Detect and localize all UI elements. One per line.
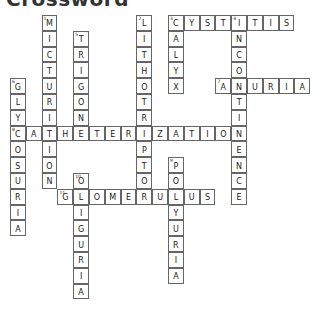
grid-cell[interactable]: I	[136, 126, 152, 142]
grid-cell[interactable]: E	[231, 141, 247, 157]
grid-cell[interactable]: U	[152, 189, 168, 205]
grid-cell[interactable]: G	[73, 78, 89, 94]
grid-cell[interactable]: O	[231, 62, 247, 78]
grid-cell[interactable]: U	[10, 173, 26, 189]
grid-cell[interactable]: O	[10, 141, 26, 157]
grid-cell[interactable]: R	[136, 189, 152, 205]
grid-cell[interactable]: H	[57, 126, 73, 142]
grid-cell[interactable]: A	[26, 126, 42, 142]
grid-cell[interactable]: S	[10, 157, 26, 173]
grid-cell[interactable]: O	[215, 126, 231, 142]
grid-cell[interactable]: E	[73, 126, 89, 142]
grid-cell[interactable]: C3	[168, 15, 184, 31]
grid-cell[interactable]: T	[231, 94, 247, 110]
grid-cell[interactable]: I	[73, 268, 89, 284]
grid-cell[interactable]: T	[136, 47, 152, 63]
grid-cell[interactable]: U	[247, 78, 263, 94]
grid-cell[interactable]: O	[73, 94, 89, 110]
grid-cell[interactable]: P	[136, 141, 152, 157]
grid-cell[interactable]: I4	[231, 15, 247, 31]
grid-cell[interactable]: C	[231, 173, 247, 189]
grid-cell[interactable]: I	[42, 31, 58, 47]
grid-cell[interactable]: R	[42, 94, 58, 110]
grid-cell[interactable]: U	[168, 220, 184, 236]
grid-cell[interactable]: I	[136, 31, 152, 47]
grid-cell[interactable]: P9	[168, 157, 184, 173]
grid-cell[interactable]: A	[168, 268, 184, 284]
grid-cell[interactable]: T	[136, 94, 152, 110]
grid-cell[interactable]: I	[10, 205, 26, 221]
grid-cell[interactable]: I	[42, 110, 58, 126]
grid-cell[interactable]: Y	[168, 62, 184, 78]
grid-cell[interactable]: Z	[152, 126, 168, 142]
grid-cell[interactable]: M1	[42, 15, 58, 31]
grid-cell[interactable]: O10	[73, 173, 89, 189]
grid-cell[interactable]: I	[263, 15, 279, 31]
grid-cell[interactable]: O	[136, 78, 152, 94]
grid-cell[interactable]: L	[168, 189, 184, 205]
grid-cell[interactable]: O	[136, 173, 152, 189]
grid-cell[interactable]: O	[89, 189, 105, 205]
grid-cell[interactable]: C	[231, 47, 247, 63]
grid-cell[interactable]: H	[136, 62, 152, 78]
grid-cell[interactable]: T	[136, 157, 152, 173]
grid-cell[interactable]: C8	[10, 126, 26, 142]
grid-cell[interactable]: I	[279, 78, 295, 94]
grid-cell[interactable]: G11	[57, 189, 73, 205]
grid-cell[interactable]: I	[200, 126, 216, 142]
grid-cell[interactable]: R	[263, 78, 279, 94]
grid-cell[interactable]: X	[168, 78, 184, 94]
grid-cell[interactable]: I	[231, 110, 247, 126]
grid-cell[interactable]: R	[10, 189, 26, 205]
grid-cell[interactable]: L	[73, 189, 89, 205]
grid-cell[interactable]: E	[105, 126, 121, 142]
grid-cell[interactable]: N	[42, 173, 58, 189]
grid-cell[interactable]: A	[10, 220, 26, 236]
grid-cell[interactable]: U	[42, 78, 58, 94]
grid-cell[interactable]: N	[231, 126, 247, 142]
grid-cell[interactable]: E	[121, 189, 137, 205]
grid-cell[interactable]: L	[168, 47, 184, 63]
grid-cell[interactable]: R	[121, 126, 137, 142]
grid-cell[interactable]: N	[231, 157, 247, 173]
grid-cell[interactable]: A	[168, 126, 184, 142]
grid-cell[interactable]: N	[231, 31, 247, 47]
grid-cell[interactable]: R	[73, 252, 89, 268]
grid-cell[interactable]: N	[73, 110, 89, 126]
grid-cell[interactable]: L	[10, 94, 26, 110]
grid-cell[interactable]: O	[168, 173, 184, 189]
grid-cell[interactable]: T	[89, 126, 105, 142]
grid-cell[interactable]: T5	[73, 31, 89, 47]
grid-cell[interactable]: S	[279, 15, 295, 31]
grid-cell[interactable]: E	[231, 189, 247, 205]
grid-cell[interactable]: G6	[10, 78, 26, 94]
grid-cell[interactable]: T	[215, 15, 231, 31]
grid-cell[interactable]: R	[73, 47, 89, 63]
grid-cell[interactable]: O	[42, 157, 58, 173]
grid-cell[interactable]: N	[231, 78, 247, 94]
grid-cell[interactable]: A	[294, 78, 310, 94]
grid-cell[interactable]: I	[73, 62, 89, 78]
grid-cell[interactable]: A	[168, 31, 184, 47]
grid-cell[interactable]: U	[73, 236, 89, 252]
grid-cell[interactable]: Y	[10, 110, 26, 126]
grid-cell[interactable]: T	[184, 126, 200, 142]
grid-cell[interactable]: G	[73, 220, 89, 236]
grid-cell[interactable]: R	[168, 236, 184, 252]
grid-cell[interactable]: Y	[184, 15, 200, 31]
grid-cell[interactable]: U	[184, 189, 200, 205]
grid-cell[interactable]: I	[42, 141, 58, 157]
grid-cell[interactable]: S	[200, 189, 216, 205]
grid-cell[interactable]: T	[42, 62, 58, 78]
grid-cell[interactable]: M	[105, 189, 121, 205]
grid-cell[interactable]: C	[42, 47, 58, 63]
grid-cell[interactable]: I	[73, 205, 89, 221]
grid-cell[interactable]: L2	[136, 15, 152, 31]
grid-cell[interactable]: A	[73, 284, 89, 300]
grid-cell[interactable]: A7	[215, 78, 231, 94]
grid-cell[interactable]: S	[200, 15, 216, 31]
grid-cell[interactable]: R	[136, 110, 152, 126]
grid-cell[interactable]: I	[168, 252, 184, 268]
grid-cell[interactable]: Y	[168, 205, 184, 221]
grid-cell[interactable]: T	[247, 15, 263, 31]
